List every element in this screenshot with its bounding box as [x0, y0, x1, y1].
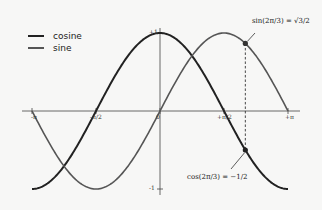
x-tick-label: +π/2 — [217, 113, 232, 120]
x-tick-label: +π — [285, 113, 294, 120]
legend: cosine sine — [28, 30, 82, 54]
x-tick-label: -π/2 — [90, 113, 102, 120]
sin-annotation-label: sin(2π/3) = √3/2 — [252, 17, 310, 25]
cos-point-marker — [243, 147, 248, 152]
cos-annotation-label: cos(2π/3) = −1/2 — [187, 173, 248, 181]
y-tick-label-top: +1 — [149, 28, 158, 35]
cos-annotation-arrow — [231, 153, 244, 169]
sin-annotation-arrow — [247, 33, 255, 41]
legend-label: cosine — [53, 31, 82, 41]
legend-item-sine: sine — [28, 42, 82, 54]
sin-point-marker — [243, 41, 248, 46]
x-tick-label: -π — [31, 113, 37, 120]
cosine-swatch — [28, 35, 44, 37]
sine-swatch — [28, 47, 44, 49]
y-tick-label-bottom: -1 — [149, 184, 155, 191]
x-tick-label: 0 — [156, 113, 160, 120]
legend-item-cosine: cosine — [28, 30, 82, 42]
legend-label: sine — [53, 43, 71, 53]
